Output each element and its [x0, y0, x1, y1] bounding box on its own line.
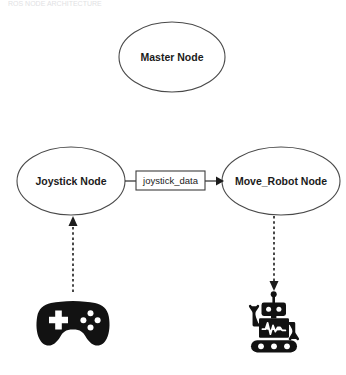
edge-move-robot-to-robot-arrowhead — [270, 281, 279, 291]
diagram-canvas: ROS NODE ARCHITECTURE Master Node Joysti… — [0, 0, 346, 375]
edge-gamepad-to-joystick — [69, 216, 78, 292]
gamepad-icon-button-bottom — [88, 324, 94, 330]
robot-icon-neck — [271, 316, 276, 319]
node-master[interactable]: Master Node — [119, 22, 225, 92]
gamepad-icon-button-top — [88, 310, 94, 316]
robot-icon-antenna-tip — [271, 291, 277, 297]
robot-icon-arm-left — [254, 312, 259, 325]
ros-node-graph: Master Node Joystick Node Move_Robot Nod… — [0, 0, 346, 375]
node-joystick-label: Joystick Node — [35, 175, 106, 187]
robot-icon-head — [262, 303, 287, 317]
gamepad-icon-body — [36, 301, 109, 346]
robot-icon-wheel-right — [284, 343, 290, 349]
edge-move-robot-to-robot — [270, 216, 279, 291]
robot-icon-claw-left — [250, 306, 258, 312]
node-joystick[interactable]: Joystick Node — [17, 147, 125, 215]
topic-joystick-data-label: joystick_data — [142, 175, 199, 186]
robot-icon — [250, 291, 298, 352]
node-move-robot[interactable]: Move_Robot Node — [222, 147, 340, 215]
robot-icon-eye-left — [266, 307, 271, 312]
gamepad-icon-button-right — [95, 317, 101, 323]
node-master-label: Master Node — [140, 51, 203, 63]
edge-gamepad-to-joystick-arrowhead — [69, 216, 78, 226]
gamepad-icon-button-left — [80, 317, 86, 323]
edge-joystick-data[interactable]: joystick_data — [125, 171, 224, 190]
robot-icon-claw-right — [290, 333, 298, 339]
gamepad-icon — [36, 301, 109, 346]
robot-icon-eye-right — [276, 307, 281, 312]
robot-icon-wheel-center — [271, 343, 277, 349]
node-move-robot-label: Move_Robot Node — [235, 175, 327, 187]
robot-icon-arm-right — [289, 323, 294, 332]
robot-icon-wheel-left — [258, 343, 264, 349]
